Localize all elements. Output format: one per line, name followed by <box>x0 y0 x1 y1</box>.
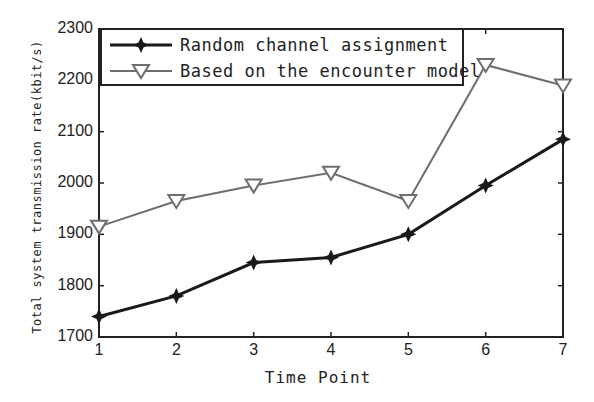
triangle-marker-icon <box>102 58 174 84</box>
y-tick-label: 2300 <box>33 19 93 37</box>
star-marker-icon <box>478 178 494 194</box>
series-line-encounter <box>99 65 563 227</box>
star-marker-icon <box>102 32 174 58</box>
y-tick-label: 2100 <box>33 122 93 140</box>
triangle-marker-icon <box>555 79 571 92</box>
x-tick-label: 1 <box>89 341 109 359</box>
star-marker-icon <box>323 249 339 265</box>
legend-label-encounter: Based on the encounter model <box>180 61 481 81</box>
series-lines <box>91 59 571 325</box>
x-tick-label: 2 <box>166 341 186 359</box>
x-tick-label: 5 <box>398 341 418 359</box>
y-tick-label: 1900 <box>33 224 93 242</box>
star-marker-icon <box>400 226 416 242</box>
legend-label-random: Random channel assignment <box>180 35 448 55</box>
x-tick-label: 6 <box>476 341 496 359</box>
y-tick-label: 1700 <box>33 327 93 345</box>
triangle-marker-icon <box>400 195 416 208</box>
star-marker-icon <box>555 131 571 147</box>
triangle-marker-icon <box>91 221 107 234</box>
star-marker-icon <box>246 255 262 271</box>
legend-item-random: Random channel assignment <box>102 32 448 58</box>
x-axis-label: Time Point <box>265 368 371 387</box>
x-tick-label: 7 <box>553 341 573 359</box>
y-tick-label: 2000 <box>33 173 93 191</box>
star-marker-icon <box>91 308 107 324</box>
legend: Random channel assignment Based on the e… <box>100 28 464 86</box>
x-tick-label: 3 <box>244 341 264 359</box>
legend-item-encounter: Based on the encounter model <box>102 58 481 84</box>
triangle-marker-icon <box>168 195 184 208</box>
star-marker-icon <box>168 288 184 304</box>
x-tick-label: 4 <box>321 341 341 359</box>
y-tick-label: 1800 <box>33 276 93 294</box>
y-tick-label: 2200 <box>33 70 93 88</box>
